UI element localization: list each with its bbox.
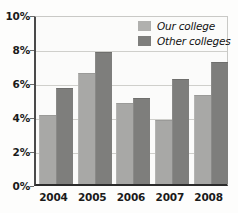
bar-group — [36, 17, 75, 184]
bar-group — [75, 17, 114, 184]
bar — [39, 115, 56, 184]
x-tick-label: 2004 — [34, 191, 73, 203]
bar — [78, 73, 95, 185]
bar — [172, 79, 189, 184]
x-tick-label: 2007 — [150, 191, 189, 203]
legend-label: Other colleges — [157, 35, 230, 47]
y-tick-label: 6% — [0, 78, 30, 90]
bar-chart: 0%2%4%6%8%10% 20042005200620072008 Our c… — [0, 0, 238, 213]
chart-legend: Our collegeOther colleges — [138, 19, 230, 49]
y-tick-label: 4% — [0, 112, 30, 124]
legend-swatch — [138, 36, 151, 46]
legend-item: Other colleges — [138, 34, 230, 47]
x-tick-label: 2005 — [73, 191, 112, 203]
bar — [56, 88, 73, 184]
bar — [95, 52, 112, 184]
x-tick-label: 2006 — [112, 191, 151, 203]
y-tick-label: 0% — [0, 180, 30, 192]
y-tick-label: 8% — [0, 44, 30, 56]
legend-swatch — [138, 21, 151, 31]
legend-label: Our college — [157, 20, 215, 32]
bar — [155, 120, 172, 184]
bar — [211, 62, 228, 184]
bar — [116, 103, 133, 184]
x-tick-label: 2008 — [189, 191, 228, 203]
y-tick-label: 2% — [0, 146, 30, 158]
legend-item: Our college — [138, 19, 230, 32]
bar — [133, 98, 150, 184]
y-tick-label: 10% — [0, 10, 30, 22]
bar — [194, 95, 211, 184]
y-tick-mark — [30, 186, 34, 187]
